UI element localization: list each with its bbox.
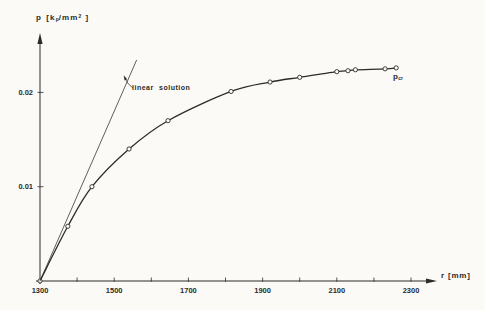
data-point-marker: [298, 75, 302, 79]
y-axis-bracket-close: ]: [86, 13, 90, 22]
y-axis-arrowhead: [37, 33, 42, 44]
linear-solution-annotation: linear solution: [132, 84, 190, 91]
x-axis-arrowhead: [426, 278, 437, 283]
data-point-marker: [346, 69, 350, 73]
data-point-marker: [335, 70, 339, 74]
x-tick-label: 2100: [328, 286, 345, 295]
data-point-marker: [127, 147, 131, 151]
data-point-marker: [166, 119, 170, 123]
y-axis-symbol: p: [36, 13, 42, 22]
y-tick-label: 0.01: [18, 182, 33, 191]
p-cr-annotation: pcr: [393, 73, 403, 82]
data-point-marker: [268, 80, 272, 84]
x-axis-label: r [mm]: [441, 272, 471, 280]
data-point-marker: [353, 68, 357, 72]
series-line-solution-curve: [40, 68, 396, 281]
p-cr-subscript: cr: [398, 76, 403, 81]
data-point-marker: [90, 185, 94, 189]
chart-canvas: 1300150017001900210023000.010.02: [0, 0, 485, 310]
data-point-marker: [229, 89, 233, 93]
y-axis-unit-sup: 2: [78, 14, 81, 19]
y-tick-label: 0.02: [18, 88, 33, 97]
y-axis-unit-rest: /mm: [59, 13, 79, 22]
x-tick-label: 1500: [106, 286, 123, 295]
data-point-marker: [383, 67, 387, 71]
data-point-marker: [66, 224, 70, 228]
annotation-arrowhead: [124, 75, 128, 80]
y-axis-label: p [kp/mm2 ]: [36, 14, 89, 23]
x-tick-label: 2300: [403, 286, 420, 295]
x-tick-label: 1700: [180, 286, 197, 295]
data-point-marker: [394, 66, 398, 70]
x-tick-label: 1900: [254, 286, 271, 295]
figure: 1300150017001900210023000.010.02 p [kp/m…: [0, 0, 485, 310]
x-tick-label: 1300: [32, 286, 49, 295]
series-line-linear-solution: [40, 60, 136, 281]
